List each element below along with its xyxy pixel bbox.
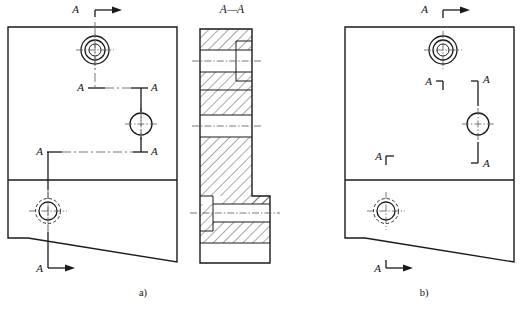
view-arrow-top-b [443, 7, 470, 19]
corner-marker-b-3 [471, 142, 478, 163]
corner-marker-b-4 [386, 156, 394, 165]
section-letter-a-left-low: A [35, 145, 43, 157]
corner-marker-b-1 [436, 81, 443, 90]
section-letter-b-top: A [420, 3, 428, 15]
view-arrow-top-a [95, 7, 122, 18]
panel-a: A A A A A A a) [8, 3, 177, 299]
section-letter-a-left-mid: A [76, 81, 84, 93]
section-letter-b-bottom: A [373, 262, 381, 274]
section-letter-b-upper-left: A [424, 75, 432, 87]
panel-b: A A A A A A b) [345, 3, 514, 299]
plain-hole-middle-a [125, 108, 158, 140]
section-letter-b-upper-right: A [482, 73, 490, 85]
view-arrow-bottom-b [386, 260, 413, 272]
counterbored-hole-top-b [424, 31, 462, 69]
cutting-plane-line-a [47, 22, 148, 268]
caption-a: a) [139, 287, 148, 299]
corner-marker-b-2 [471, 81, 478, 106]
engineering-drawing-canvas: A A A A A A a) A—A [0, 0, 529, 309]
part-outline-b [345, 27, 514, 262]
section-letter-a-top: A [71, 3, 79, 15]
caption-b: b) [420, 287, 429, 299]
section-letter-a-bottom: A [35, 262, 43, 274]
section-view-a-a: A—A [190, 3, 280, 263]
section-letter-b-lower-left: A [374, 150, 382, 162]
section-letter-a-right-mid: A [150, 81, 158, 93]
plain-hole-middle-b [462, 108, 495, 140]
view-arrow-bottom-a [48, 265, 75, 272]
threaded-hole-bottom-b [367, 192, 405, 230]
section-view-title: A—A [219, 3, 245, 15]
section-letter-b-lower-right: A [482, 157, 490, 169]
cutting-plane-markers-b [386, 7, 478, 272]
section-letter-a-right-low: A [150, 145, 158, 157]
drawing-svg: A A A A A A a) A—A [0, 0, 529, 309]
